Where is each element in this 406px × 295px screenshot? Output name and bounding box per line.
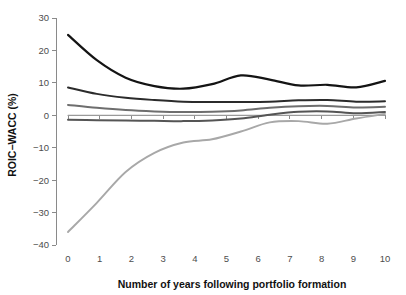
y-tick-label: −30: [33, 207, 49, 218]
y-tick-label: 30: [38, 12, 49, 23]
y-tick-label: −20: [33, 175, 49, 186]
x-tick-label: 4: [192, 253, 197, 264]
x-axis-title: Number of years following portfolio form…: [118, 278, 347, 290]
x-tick-label: 5: [224, 253, 229, 264]
y-tick-label: −40: [33, 239, 49, 250]
series-line-quintile-1-highest: [68, 35, 385, 89]
x-tick-label: 9: [351, 253, 356, 264]
x-axis: 012345678910: [65, 115, 390, 264]
y-axis-title: ROIC−WACC (%): [6, 93, 18, 177]
chart-plot: −40−30−20−100102030 012345678910 Number …: [0, 0, 406, 295]
y-tick-label: −10: [33, 142, 49, 153]
x-tick-label: 7: [287, 253, 292, 264]
x-tick-label: 3: [160, 253, 165, 264]
x-tick-label: 2: [129, 253, 134, 264]
x-tick-label: 6: [256, 253, 261, 264]
x-tick-label: 1: [97, 253, 102, 264]
x-tick-label: 8: [319, 253, 324, 264]
series-line-quintile-2: [68, 87, 385, 102]
x-tick-label: 10: [380, 253, 391, 264]
y-tick-label: 0: [44, 110, 49, 121]
series-line-quintile-5-lowest: [68, 114, 385, 232]
x-tick-label: 0: [65, 253, 70, 264]
y-tick-label: 20: [38, 45, 49, 56]
series-lines: [68, 35, 385, 232]
chart-container: −40−30−20−100102030 012345678910 Number …: [0, 0, 406, 295]
series-line-quintile-3: [68, 105, 385, 112]
y-axis: −40−30−20−100102030: [33, 12, 56, 250]
y-tick-label: 10: [38, 77, 49, 88]
